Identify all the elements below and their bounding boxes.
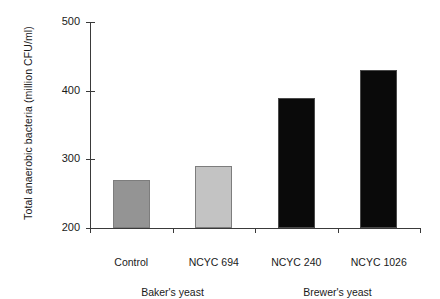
x-tick-label: NCYC 1026: [338, 256, 421, 269]
bar: [278, 98, 315, 228]
x-tick: [420, 228, 421, 233]
y-tick-label-500: 500: [46, 15, 80, 28]
group-label: Baker's yeast: [113, 286, 233, 299]
x-tick-label: Control: [90, 256, 173, 269]
y-tick-label-400: 400: [46, 84, 80, 97]
y-tick-500: 500: [86, 22, 95, 23]
x-tick-label: NCYC 694: [173, 256, 256, 269]
plot-area: 200300400500 ControlNCYC 694NCYC 240NCYC…: [90, 22, 420, 228]
bar: [113, 180, 150, 228]
bar: [360, 70, 397, 228]
y-tick-400: 400: [86, 91, 95, 92]
y-tick-label-300: 300: [46, 152, 80, 165]
bar: [195, 166, 232, 228]
x-tick: [90, 228, 91, 233]
y-tick-label-200: 200: [46, 221, 80, 234]
group-label: Brewer's yeast: [278, 286, 398, 299]
y-axis-title: Total anaerobic bacteria (million CFU/ml…: [21, 3, 35, 243]
x-tick: [338, 228, 339, 233]
y-tick-300: 300: [86, 159, 95, 160]
x-tick: [173, 228, 174, 233]
x-tick: [255, 228, 256, 233]
x-tick-label: NCYC 240: [255, 256, 338, 269]
y-axis-line: [90, 22, 91, 229]
